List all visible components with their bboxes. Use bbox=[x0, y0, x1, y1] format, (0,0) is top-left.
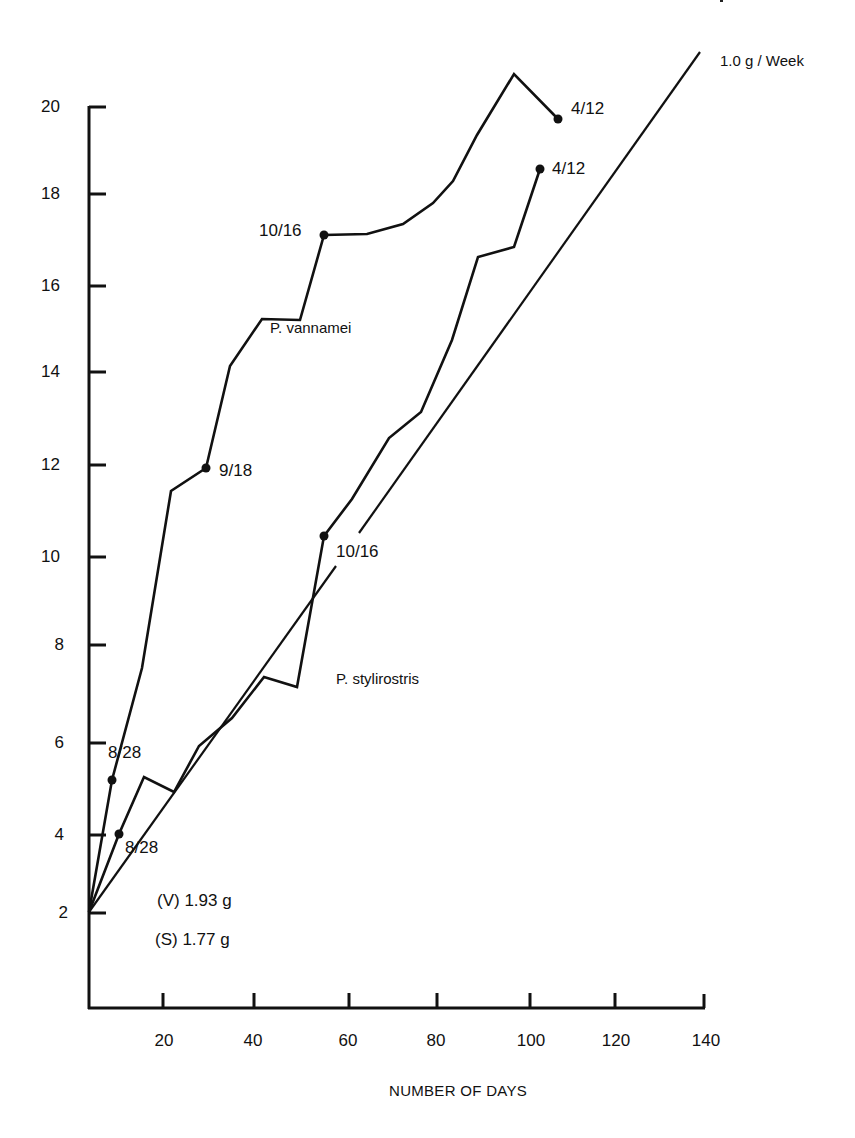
x-tick-80: 80 bbox=[411, 1032, 461, 1049]
y-tick-4: 4 bbox=[24, 826, 64, 843]
reference-line-label: 1.0 g / Week bbox=[720, 53, 804, 68]
vannamei-label-4-12: 4/12 bbox=[571, 100, 604, 117]
series-vannamei-line bbox=[89, 74, 558, 912]
vannamei-label-10-16: 10/16 bbox=[259, 222, 302, 239]
reference-line-1g-per-week bbox=[89, 52, 700, 912]
stylirostris-label-8-28: 8/28 bbox=[125, 839, 158, 856]
x-tick-60: 60 bbox=[323, 1032, 373, 1049]
y-tick-18: 18 bbox=[20, 185, 60, 202]
y-tick-2: 2 bbox=[28, 904, 68, 921]
x-tick-40: 40 bbox=[228, 1032, 278, 1049]
y-tick-16: 16 bbox=[20, 277, 60, 294]
x-tick-140: 140 bbox=[681, 1032, 731, 1049]
y-tick-12: 12 bbox=[20, 456, 60, 473]
x-axis-title: NUMBER OF DAYS bbox=[389, 1082, 527, 1099]
x-axis bbox=[88, 993, 705, 1008]
vannamei-label-8-28: 8/28 bbox=[108, 744, 141, 761]
stylirostris-label-4-12: 4/12 bbox=[552, 160, 585, 177]
growth-chart bbox=[0, 0, 855, 1138]
x-tick-100: 100 bbox=[506, 1032, 556, 1049]
stylirostris-label-10-16: 10/16 bbox=[336, 543, 379, 560]
series-label-stylirostris: P. stylirostris bbox=[336, 671, 419, 686]
y-tick-10: 10 bbox=[20, 548, 60, 565]
start-weight-vannamei: (V) 1.93 g bbox=[157, 892, 232, 909]
series-stylirostris-markers bbox=[115, 165, 545, 839]
series-vannamei-markers bbox=[108, 115, 563, 785]
y-tick-14: 14 bbox=[20, 363, 60, 380]
series-stylirostris-line bbox=[89, 169, 540, 912]
y-tick-6: 6 bbox=[24, 734, 64, 751]
y-tick-8: 8 bbox=[24, 636, 64, 653]
vannamei-label-9-18: 9/18 bbox=[219, 462, 252, 479]
x-tick-120: 120 bbox=[591, 1032, 641, 1049]
x-tick-20: 20 bbox=[139, 1032, 189, 1049]
y-tick-20: 20 bbox=[20, 98, 60, 115]
series-label-vannamei: P. vannamei bbox=[270, 320, 351, 335]
start-weight-stylirostris: (S) 1.77 g bbox=[155, 931, 230, 948]
